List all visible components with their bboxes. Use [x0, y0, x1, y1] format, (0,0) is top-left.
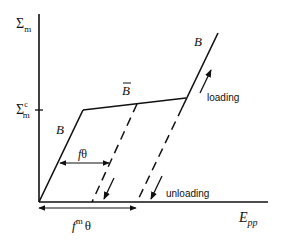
loading-arrow — [200, 70, 211, 93]
unloading-label: unloading — [166, 188, 209, 199]
reload-branch-label: B — [194, 34, 202, 49]
unloading-arrow-2 — [151, 176, 162, 199]
unloading-arrow-1 — [104, 178, 114, 199]
y-axis-label: Σm — [16, 16, 31, 34]
f-theta-label: fθ — [78, 147, 87, 161]
diagram-canvas: Σm Σcm Epp B B B loading unloading fθ fm… — [0, 0, 282, 245]
initial-branch-label: B — [56, 122, 64, 137]
y-tick-label: Σcm — [16, 100, 30, 120]
unloading-dashed-line-1 — [92, 104, 137, 202]
x-axis-label: Epp — [238, 210, 258, 228]
fm-theta-label: fmθ — [72, 216, 91, 233]
loading-label: loading — [207, 92, 239, 103]
plateau-label: B — [122, 83, 130, 98]
